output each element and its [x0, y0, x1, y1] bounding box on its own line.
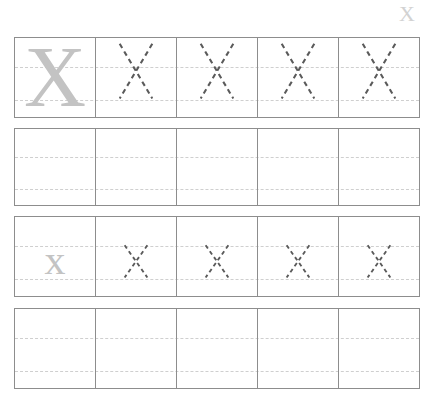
- worksheet-cell-blank[interactable]: [177, 309, 258, 388]
- worksheet-header: X: [0, 0, 435, 33]
- trace-letter-x-icon: [339, 217, 419, 296]
- worksheet-cell-model[interactable]: x: [15, 217, 96, 296]
- trace-letter-x-icon: [177, 38, 257, 117]
- model-letter-glyph: X: [15, 38, 95, 117]
- practice-row-lowercase-model: x: [14, 216, 420, 297]
- worksheet-cell-blank[interactable]: [96, 129, 177, 205]
- practice-row-uppercase-model: X: [14, 37, 420, 118]
- model-letter-glyph: x: [15, 239, 95, 281]
- trace-letter-x-icon: [96, 217, 176, 296]
- trace-letter-x-icon: [339, 38, 419, 117]
- worksheet-cell-trace[interactable]: [96, 217, 177, 296]
- trace-letter-x-icon: [96, 38, 176, 117]
- worksheet-cell-blank[interactable]: [96, 309, 177, 388]
- worksheet-cell-trace[interactable]: [177, 38, 258, 117]
- worksheet-cell-blank[interactable]: [339, 129, 419, 205]
- worksheet-cell-trace[interactable]: [339, 38, 419, 117]
- worksheet-cell-model[interactable]: X: [15, 38, 96, 117]
- worksheet-cell-trace[interactable]: [339, 217, 419, 296]
- worksheet-cell-blank[interactable]: [177, 129, 258, 205]
- worksheet-cell-blank[interactable]: [258, 309, 339, 388]
- trace-letter-x-icon: [258, 217, 338, 296]
- trace-letter-x-icon: [258, 38, 338, 117]
- worksheet-cell-blank[interactable]: [258, 129, 339, 205]
- worksheet-cell-trace[interactable]: [258, 217, 339, 296]
- worksheet-cell-blank[interactable]: [15, 309, 96, 388]
- handwriting-worksheet: X X: [0, 0, 435, 397]
- practice-row-uppercase-blank: [14, 128, 420, 206]
- practice-row-lowercase-blank: [14, 308, 420, 389]
- trace-letter-x-icon: [177, 217, 257, 296]
- header-letter-label: X: [399, 0, 415, 30]
- worksheet-cell-trace[interactable]: [177, 217, 258, 296]
- worksheet-cell-trace[interactable]: [96, 38, 177, 117]
- worksheet-cell-trace[interactable]: [258, 38, 339, 117]
- worksheet-cell-blank[interactable]: [15, 129, 96, 205]
- worksheet-cell-blank[interactable]: [339, 309, 419, 388]
